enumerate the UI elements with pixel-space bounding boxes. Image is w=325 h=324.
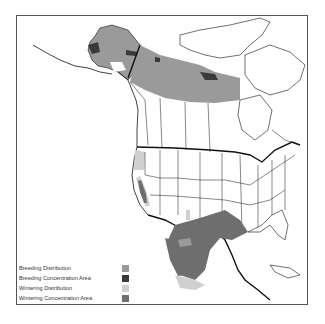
legend-swatch: [122, 265, 129, 272]
legend-label: Wintering Concentration Area: [19, 295, 92, 301]
legend-swatch: [122, 285, 129, 292]
legend-label: Breeding Distribution: [19, 265, 71, 271]
canada-us-border: [137, 142, 300, 162]
legend-label: Breeding Concentration Area: [19, 275, 91, 281]
northern-canada: [128, 18, 305, 152]
west-coast: [132, 110, 150, 215]
wintering-distribution-new-mexico: [186, 210, 190, 220]
legend-label: Wintering Distribution: [19, 285, 72, 291]
legend-swatch: [122, 275, 129, 282]
map-legend: Breeding Distribution Breeding Concentra…: [19, 263, 129, 303]
legend-item-breeding-concentration: Breeding Concentration Area: [19, 273, 129, 283]
cuba: [270, 265, 300, 278]
legend-swatch: [122, 295, 129, 302]
legend-item-breeding-distribution: Breeding Distribution: [19, 263, 129, 273]
florida: [248, 210, 288, 240]
legend-item-wintering-distribution: Wintering Distribution: [19, 283, 129, 293]
legend-item-wintering-concentration: Wintering Concentration Area: [19, 293, 129, 303]
alaska: [33, 25, 140, 110]
